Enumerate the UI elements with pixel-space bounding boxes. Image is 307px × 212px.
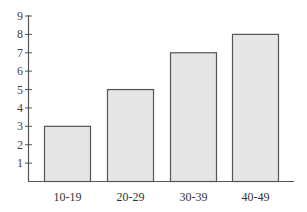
y-tick-label: 8 [17, 27, 23, 41]
y-tick-label: 6 [17, 64, 23, 78]
y-tick-label: 3 [17, 119, 23, 133]
y-tick-label: 5 [17, 83, 23, 97]
bar-30-39 [171, 53, 217, 182]
x-tick-label: 20-29 [117, 190, 145, 204]
y-tick-label: 9 [17, 9, 23, 23]
y-tick-label: 1 [17, 156, 23, 170]
y-tick-label: 7 [17, 46, 23, 60]
y-axis: 123456789 [17, 9, 32, 182]
bars-group [45, 34, 279, 181]
y-tick-label: 4 [17, 101, 23, 115]
bar-chart: 123456789 10-1920-2930-3940-49 [0, 0, 307, 212]
y-tick-label: 2 [17, 138, 23, 152]
bar-40-49 [233, 34, 279, 181]
x-axis: 10-1920-2930-3940-49 [28, 182, 294, 205]
bar-20-29 [108, 90, 154, 182]
x-tick-label: 40-49 [242, 190, 270, 204]
x-tick-label: 30-39 [180, 190, 208, 204]
bar-10-19 [45, 126, 91, 181]
x-tick-label: 10-19 [54, 190, 82, 204]
